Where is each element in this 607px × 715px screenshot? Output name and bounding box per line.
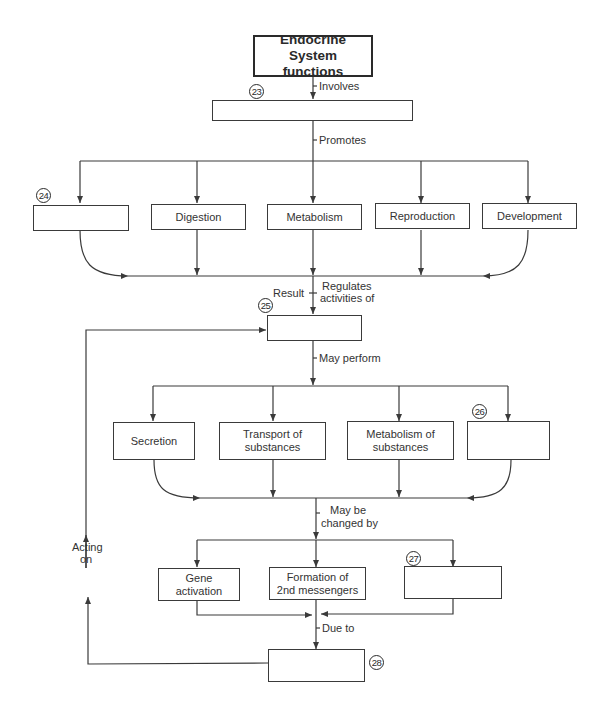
node-metabolism-of-line2: substances (373, 441, 429, 454)
node-development-label: Development (497, 210, 562, 223)
endocrine-concept-map: Endocrine System functions Involves Prom… (0, 0, 607, 715)
node-digestion-label: Digestion (176, 211, 222, 224)
edge-label-acting-1: Acting (72, 541, 103, 554)
edge-label-acting-2: on (80, 553, 92, 566)
edge-label-result: Result (273, 287, 304, 300)
node-development: Development (482, 203, 577, 229)
edge-label-promotes: Promotes (319, 134, 366, 147)
node-metabolism: Metabolism (267, 204, 362, 230)
node-second-messengers-line2: 2nd messengers (277, 584, 358, 597)
node-gene-activation: Gene activation (158, 568, 240, 601)
number-badge-26: 26 (472, 404, 487, 419)
number-badge-28: 28 (369, 655, 384, 670)
edge-label-due-to: Due to (322, 622, 354, 635)
blank-box-28[interactable] (268, 649, 365, 682)
node-reproduction-label: Reproduction (390, 210, 455, 223)
node-metabolism-of-substances: Metabolism of substances (347, 421, 454, 460)
node-second-messengers-line1: Formation of (287, 571, 349, 584)
edge-label-involves: Involves (319, 80, 359, 93)
edge-label-regulates-1: Regulates (322, 280, 372, 293)
title-text: Endocrine System functions (258, 32, 368, 80)
blank-box-24[interactable] (33, 205, 129, 231)
title-box: Endocrine System functions (253, 35, 373, 77)
node-secretion: Secretion (113, 422, 195, 460)
node-gene-activation-line1: Gene (186, 572, 213, 585)
blank-box-25[interactable] (267, 315, 362, 341)
edge-label-may-be-2: changed by (321, 517, 378, 530)
node-reproduction: Reproduction (375, 203, 470, 229)
edge-label-regulates-2: activities of (320, 292, 374, 305)
number-badge-27: 27 (406, 551, 421, 566)
blank-box-26[interactable] (467, 421, 550, 460)
number-badge-25: 25 (258, 298, 273, 313)
node-transport-line1: Transport of (243, 428, 302, 441)
node-gene-activation-line2: activation (176, 585, 222, 598)
blank-box-27[interactable] (404, 566, 502, 599)
node-transport-line2: substances (245, 441, 301, 454)
edge-label-may-be-1: May be (330, 504, 366, 517)
number-badge-23: 23 (249, 84, 264, 99)
node-digestion: Digestion (151, 204, 246, 230)
node-secretion-label: Secretion (131, 435, 177, 448)
node-metabolism-of-line1: Metabolism of (366, 428, 434, 441)
node-metabolism-label: Metabolism (286, 211, 342, 224)
blank-box-23[interactable] (212, 100, 413, 121)
node-transport-of-substances: Transport of substances (219, 422, 326, 460)
edge-label-may-perform: May perform (319, 352, 381, 365)
node-formation-of-2nd-messengers: Formation of 2nd messengers (269, 567, 366, 600)
number-badge-24: 24 (36, 188, 51, 203)
